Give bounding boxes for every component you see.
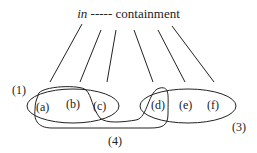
node-b: (b) — [66, 97, 80, 112]
node-a: (a) — [36, 100, 49, 115]
set-label-4: (4) — [108, 134, 122, 149]
set-label-1: (1) — [12, 83, 26, 98]
node-f: (f) — [207, 98, 219, 113]
line-b — [80, 30, 101, 82]
line-d — [134, 30, 153, 82]
diagram-canvas — [0, 0, 257, 153]
line-c — [107, 30, 116, 82]
line-a — [50, 24, 82, 82]
node-e: (e) — [179, 98, 192, 113]
node-d: (d) — [151, 98, 165, 113]
line-f — [172, 26, 214, 82]
node-c: (c) — [93, 99, 106, 114]
set-label-3: (3) — [232, 120, 246, 135]
